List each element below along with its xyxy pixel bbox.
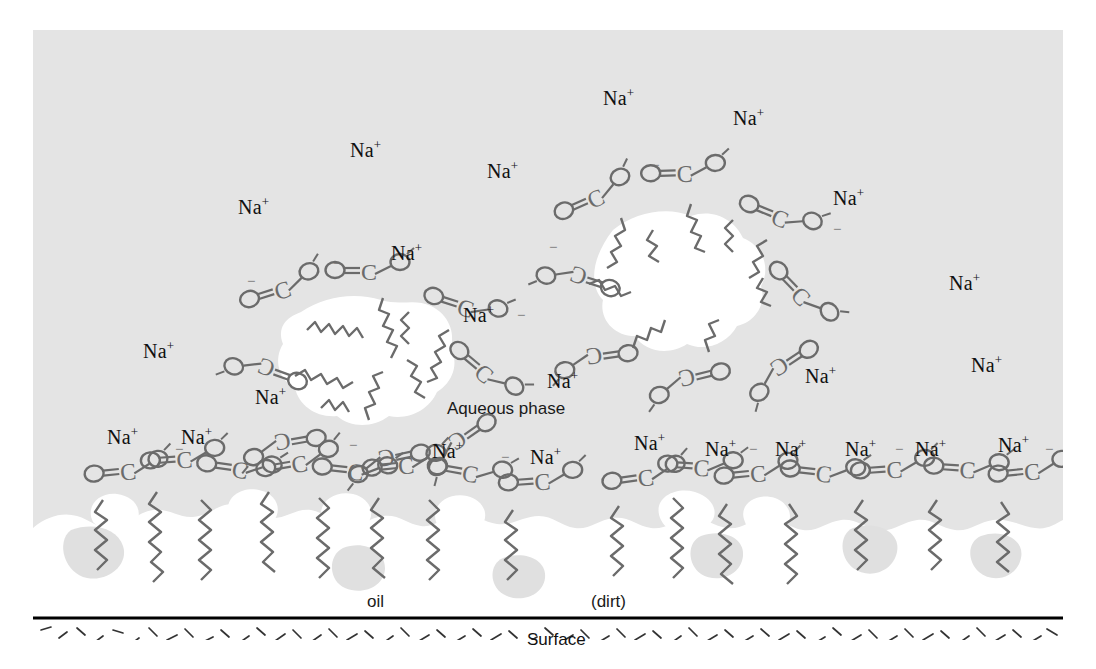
svg-text:−: − bbox=[651, 157, 659, 173]
sodium-ion-label: Na+ bbox=[805, 366, 836, 386]
sodium-ion-label: Na+ bbox=[255, 387, 286, 407]
sodium-ion-label: Na+ bbox=[143, 341, 174, 361]
oil-label: oil bbox=[367, 593, 384, 610]
sodium-ion-label: Na+ bbox=[949, 273, 980, 293]
dirt-label: (dirt) bbox=[591, 593, 626, 610]
diagram-svg: C bbox=[33, 30, 1063, 640]
sodium-ion-label: Na+ bbox=[391, 243, 422, 263]
svg-text:−: − bbox=[833, 221, 841, 237]
aqueous-phase-label: Aqueous phase bbox=[447, 400, 565, 417]
svg-text:−: − bbox=[247, 273, 255, 289]
sodium-ion-label: Na+ bbox=[432, 441, 463, 461]
svg-text:−: − bbox=[895, 441, 903, 457]
sodium-ion-label: Na+ bbox=[971, 355, 1002, 375]
sodium-ion-label: Na+ bbox=[775, 439, 806, 459]
sodium-ion-label: Na+ bbox=[915, 439, 946, 459]
sodium-ion-label: Na+ bbox=[530, 447, 561, 467]
sodium-ion-label: Na+ bbox=[547, 371, 578, 391]
sodium-ion-label: Na+ bbox=[705, 439, 736, 459]
svg-text:−: − bbox=[1045, 441, 1053, 457]
sodium-ion-label: Na+ bbox=[181, 427, 212, 447]
svg-text:−: − bbox=[517, 307, 525, 323]
svg-text:−: − bbox=[749, 441, 757, 457]
svg-text:−: − bbox=[501, 449, 509, 465]
svg-text:−: − bbox=[349, 437, 357, 453]
svg-text:−: − bbox=[549, 239, 557, 255]
sodium-ion-label: Na+ bbox=[733, 108, 764, 128]
diagram-panel: C bbox=[33, 30, 1063, 640]
surface-label: Surface bbox=[527, 631, 586, 648]
sodium-ion-label: Na+ bbox=[833, 188, 864, 208]
sodium-ion-label: Na+ bbox=[463, 305, 494, 325]
sodium-ion-label: Na+ bbox=[350, 140, 381, 160]
sodium-ion-label: Na+ bbox=[845, 439, 876, 459]
sodium-ion-label: Na+ bbox=[107, 427, 138, 447]
sodium-ion-label: Na+ bbox=[634, 433, 665, 453]
sodium-ion-label: Na+ bbox=[603, 88, 634, 108]
sodium-ion-label: Na+ bbox=[487, 161, 518, 181]
sodium-ion-label: Na+ bbox=[998, 435, 1029, 455]
figure-canvas: C bbox=[0, 0, 1096, 669]
svg-text:−: − bbox=[333, 255, 341, 271]
sodium-ion-label: Na+ bbox=[238, 197, 269, 217]
